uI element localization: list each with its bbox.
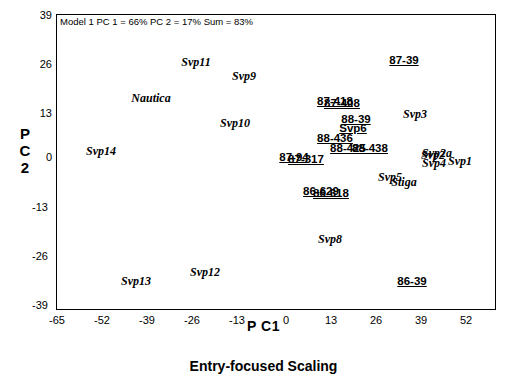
- biplot-figure: Model 1 PC 1 = 66% PC 2 = 17% Sum = 83% …: [0, 0, 527, 386]
- entry-label: 87-39: [389, 54, 418, 66]
- entry-label: 86-39: [397, 275, 426, 287]
- model-variance-note: Model 1 PC 1 = 66% PC 2 = 17% Sum = 83%: [60, 16, 253, 27]
- vector-label: Svp4: [422, 156, 446, 171]
- entry-label: 88-438: [352, 142, 388, 154]
- entry-label: 86-618: [313, 187, 349, 199]
- y-tick-0: 0: [18, 151, 52, 163]
- vector-label: Stiga: [391, 175, 416, 190]
- vector-label: Svp3: [403, 107, 427, 122]
- vector-label: Svp11: [181, 55, 210, 70]
- y-tick-n13: -13: [14, 201, 48, 213]
- y-tick-n26: -26: [14, 250, 48, 262]
- x-axis-title: P C1: [0, 318, 527, 334]
- vector-label: Svp1: [448, 154, 472, 169]
- y-tick-39: 39: [18, 9, 52, 21]
- vector-label: Svp8: [318, 232, 342, 247]
- vector-label: Svp13: [121, 274, 151, 289]
- figure-caption: Entry-focused Scaling: [0, 358, 527, 374]
- entry-label: 87-317: [288, 153, 324, 165]
- vector-label: Svp10: [220, 116, 250, 131]
- vector-label: Svp9: [232, 69, 256, 84]
- y-tick-n39: -39: [14, 299, 48, 311]
- y-tick-26: 26: [18, 58, 52, 70]
- entry-label: 87-408: [324, 97, 360, 109]
- vector-label: Nautica: [131, 91, 170, 106]
- vector-label: Svp12: [190, 265, 220, 280]
- y-axis-title-line-1: P: [14, 125, 36, 142]
- vector-label: Svp14: [86, 144, 116, 159]
- y-tick-13: 13: [18, 107, 52, 119]
